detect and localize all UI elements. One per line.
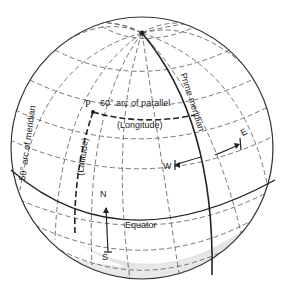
sphere-shading xyxy=(60,95,277,281)
label-equator: Equator xyxy=(125,221,157,230)
prime-meridian-line xyxy=(142,33,212,275)
label-north: N xyxy=(100,190,107,199)
label-point-p: P xyxy=(85,99,91,109)
label-west: W xyxy=(163,162,172,171)
equator-line xyxy=(11,170,275,220)
point-p xyxy=(91,110,95,114)
label-south: S xyxy=(102,253,108,262)
parallel-arc xyxy=(93,112,195,120)
globe-diagram xyxy=(0,0,284,284)
label-parallel-arc-sub: (Longitude) xyxy=(117,121,163,130)
label-parallel-arc: 60° arc of parallel xyxy=(100,99,170,108)
north-pole-point xyxy=(140,31,145,36)
north-south-arrow xyxy=(103,207,112,252)
